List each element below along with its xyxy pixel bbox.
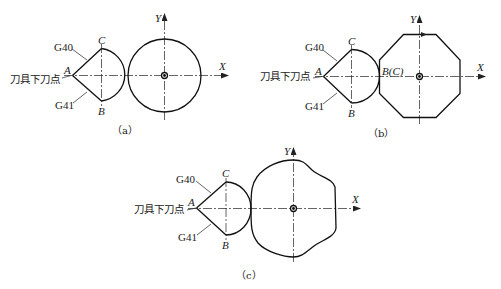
y-axis-label: Y: [284, 145, 292, 157]
point-b-label: B: [222, 239, 229, 251]
g41-leader: [73, 92, 87, 103]
g40-label: G40: [176, 173, 195, 185]
panel-b: G40 G41 A C B B(C) X Y 刀具下刀点 （b）: [260, 13, 485, 139]
panel-c: G40 G41 A C B X Y 刀具下刀点 （c）: [134, 145, 360, 281]
point-c-label: C: [222, 167, 230, 179]
g41-leader: [323, 93, 337, 104]
panel-a: G40 G41 A C B X Y 刀具下刀点 （a）: [10, 12, 228, 136]
g40-leader: [72, 49, 87, 60]
point-c-label: C: [348, 35, 356, 47]
caption-a: （a）: [112, 125, 138, 136]
tool-entry-label: 刀具下刀点: [134, 203, 184, 215]
approach-lines: [73, 49, 102, 102]
point-c-label: C: [98, 34, 106, 46]
g40-label: G40: [54, 41, 73, 53]
tangent-point-label: B(C): [382, 65, 404, 78]
y-axis-label: Y: [410, 13, 418, 25]
y-axis-label: Y: [155, 12, 163, 24]
point-a-label: A: [187, 196, 195, 208]
g40-label: G40: [305, 41, 324, 53]
tool-entry-label: 刀具下刀点: [260, 70, 310, 82]
g41-label: G41: [55, 99, 74, 111]
point-a-label: A: [63, 64, 71, 76]
caption-c: （c）: [236, 270, 262, 281]
caption-b: （b）: [368, 128, 394, 139]
point-b-label: B: [348, 107, 355, 119]
g41-label: G41: [178, 231, 197, 243]
g41-label: G41: [305, 100, 324, 112]
x-axis-label: X: [218, 60, 227, 72]
point-b-label: B: [98, 105, 105, 117]
x-axis-label: X: [351, 193, 360, 205]
tool-entry-label: 刀具下刀点: [10, 73, 60, 85]
cutter-compensation-diagram: G40 G41 A C B X Y 刀具下刀点 （a） G40 G41 A C …: [0, 0, 501, 289]
lead-arc: [102, 49, 125, 102]
g40-leader: [196, 181, 211, 193]
x-axis-label: X: [476, 61, 485, 73]
direction-arrow: [421, 32, 427, 37]
g41-leader: [197, 224, 211, 235]
g40-leader: [323, 50, 337, 61]
point-a-label: A: [314, 65, 322, 77]
